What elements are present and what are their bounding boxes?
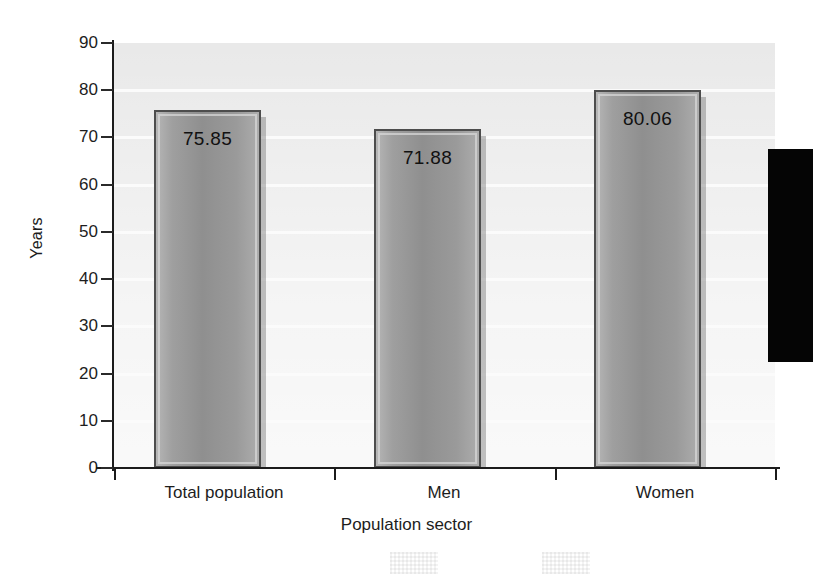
bar: 71.88 <box>374 129 481 468</box>
y-axis-tick <box>101 325 113 327</box>
y-axis-tick <box>101 420 113 422</box>
y-axis-tick <box>101 278 113 280</box>
x-axis-category-label: Men <box>334 483 554 503</box>
bar-value-label: 80.06 <box>596 108 699 130</box>
y-axis-tick-label: 80 <box>48 81 98 98</box>
bar-value-label: 71.88 <box>376 147 479 169</box>
x-axis-category-label: Women <box>555 483 775 503</box>
y-axis-tick-label: 70 <box>48 128 98 145</box>
x-axis-tick <box>555 467 557 480</box>
plot-area: 75.8571.8880.06 <box>114 43 775 468</box>
y-axis-tick <box>101 42 113 44</box>
y-axis-tick <box>101 467 113 469</box>
scan-artifact-black-bar <box>768 149 813 362</box>
bar-chart: Years 75.8571.8880.06 908070605040302010… <box>0 0 813 581</box>
y-axis-line <box>112 40 114 471</box>
y-axis-tick-label: 30 <box>48 317 98 334</box>
y-axis-title: Years <box>28 188 46 288</box>
x-axis-tick <box>775 467 777 480</box>
y-axis-tick <box>101 89 113 91</box>
x-axis-line <box>96 467 780 469</box>
x-axis-category-label: Total population <box>114 483 334 503</box>
bar-value-label: 75.85 <box>156 128 259 150</box>
y-axis-tick <box>101 136 113 138</box>
y-axis-tick-label: 40 <box>48 270 98 287</box>
y-axis-tick-label: 10 <box>48 412 98 429</box>
x-axis-tick <box>334 467 336 480</box>
y-axis-tick <box>101 184 113 186</box>
x-axis-tick <box>114 467 116 480</box>
bar: 80.06 <box>594 90 701 468</box>
y-axis-tick-label: 20 <box>48 365 98 382</box>
bar: 75.85 <box>154 110 261 468</box>
y-axis-tick-label: 60 <box>48 176 98 193</box>
y-axis-tick <box>101 373 113 375</box>
bar-inner-highlight <box>378 133 477 464</box>
y-axis-tick-label: 50 <box>48 223 98 240</box>
scan-artifact-halftone-patch <box>542 552 590 574</box>
y-axis-tick-label: 0 <box>48 459 98 476</box>
bar-inner-highlight <box>598 94 697 464</box>
y-axis-tick <box>101 231 113 233</box>
bar-inner-highlight <box>158 114 257 464</box>
x-axis-title: Population sector <box>0 515 813 535</box>
y-axis-tick-label: 90 <box>48 34 98 51</box>
scan-artifact-halftone-patch <box>390 552 438 574</box>
